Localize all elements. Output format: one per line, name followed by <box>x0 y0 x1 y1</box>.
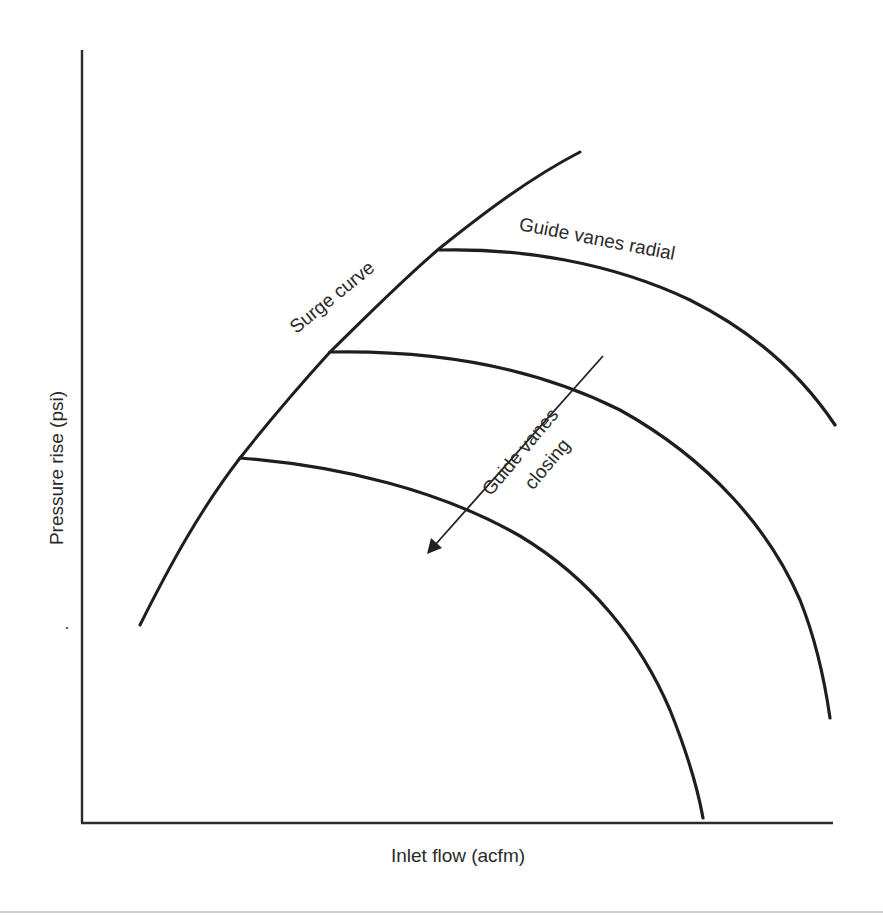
surge-curve <box>140 152 580 625</box>
surge-curve-label: Surge curve <box>285 257 378 338</box>
y-axis-label: Pressure rise (psi) <box>46 391 67 545</box>
stray-mark <box>66 627 69 630</box>
x-axis-label: Inlet flow (acfm) <box>391 845 525 866</box>
compressor-performance-chart: Inlet flow (acfm) Pressure rise (psi) Su… <box>0 0 883 915</box>
curve-guide-vanes-closed <box>240 458 703 818</box>
bottom-border <box>0 911 883 913</box>
curve-guide-vanes-partial <box>330 352 830 718</box>
curve-guide-vanes-radial <box>440 250 835 425</box>
